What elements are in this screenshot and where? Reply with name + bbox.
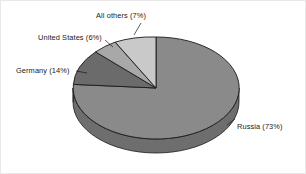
leader-line-all-others — [134, 23, 141, 35]
slice-label-russia: Russia (73%) — [237, 123, 283, 130]
pie-chart-graphic — [1, 1, 306, 174]
slice-label-germany: Germany (14%) — [16, 67, 69, 74]
pie-chart-figure: All others (7%) United States (6%) Germa… — [0, 0, 306, 174]
slice-label-united-states: United States (6%) — [38, 34, 102, 41]
slice-label-all-others: All others (7%) — [96, 12, 146, 19]
pie-top-face — [73, 37, 239, 139]
